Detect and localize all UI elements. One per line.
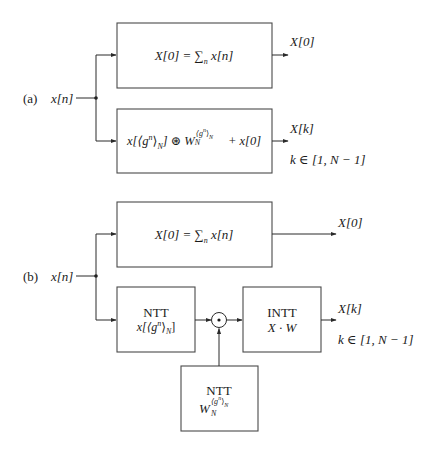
- output-x0-label-a: X[0]: [290, 35, 315, 48]
- sum-formula-b: X[0] = ∑n x[n]: [155, 228, 234, 241]
- range-label-b: k ∈ [1, N − 1]: [338, 333, 413, 346]
- branch-bottom-wire-b: [96, 276, 116, 320]
- branch-bottom-wire-a: [96, 98, 116, 141]
- panel-a: [76, 23, 288, 173]
- output-xk-label-b: X[k]: [338, 302, 362, 315]
- panel-label-b: (b): [23, 270, 38, 283]
- output-xk-label-a: X[k]: [290, 122, 314, 135]
- diagram-canvas: (a) x[n] X[0] = ∑n x[n] X[0] x[⟨gn⟩N] ⊛ …: [0, 0, 427, 454]
- output-x0-label-b: X[0]: [338, 216, 363, 229]
- range-label-a: k ∈ [1, N − 1]: [290, 153, 365, 166]
- panel-label-a: (a): [23, 92, 37, 105]
- input-label-b: x[n]: [51, 270, 73, 283]
- ntt-input-title: NTT: [143, 306, 168, 319]
- convolution-formula-a: x[⟨gn⟩N] ⊛ WN⟨gn⟩N + x[0]: [127, 135, 261, 148]
- ntt-input-expr: x[⟨gn⟩N]: [137, 321, 176, 333]
- branch-top-wire-b: [96, 234, 116, 276]
- branch-top-wire-a: [96, 55, 116, 98]
- input-label-a: x[n]: [51, 92, 73, 105]
- sum-formula-a: X[0] = ∑n x[n]: [155, 49, 234, 62]
- pointwise-multiply-dot: [217, 318, 220, 321]
- intt-expr: X · W: [268, 321, 297, 334]
- intt-title: INTT: [267, 306, 297, 319]
- ntt-twiddle-expr: W N ⟨gn⟩N: [199, 400, 243, 418]
